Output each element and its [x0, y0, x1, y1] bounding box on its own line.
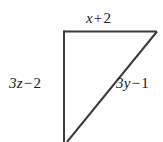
triangle-shape — [0, 0, 163, 142]
diagonal-label-variable: 3y — [116, 75, 131, 91]
diagonal-side-label: 3y−1 — [116, 76, 149, 91]
top-label-operator: + — [93, 10, 104, 26]
top-label-variable: x — [86, 10, 93, 26]
left-side-label: 3z−2 — [9, 76, 41, 91]
left-label-constant: 2 — [33, 75, 41, 91]
geometry-figure: x+2 3z−2 3y−1 — [0, 0, 163, 142]
diagonal-label-operator: − — [131, 75, 142, 91]
top-label-constant: 2 — [104, 10, 112, 26]
top-side-label: x+2 — [86, 11, 111, 26]
diagonal-label-constant: 1 — [141, 75, 149, 91]
left-label-operator: − — [23, 75, 34, 91]
left-label-variable: 3z — [9, 75, 23, 91]
